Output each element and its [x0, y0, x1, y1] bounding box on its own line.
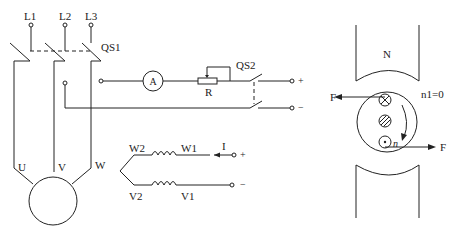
switch-qs2	[250, 74, 290, 108]
winding-plus: +	[240, 149, 246, 160]
label-qs1: QS1	[101, 41, 121, 53]
rotation-arrow	[402, 105, 407, 137]
shaft-icon	[379, 115, 391, 127]
rotor	[357, 92, 417, 152]
dc-minus: −	[298, 102, 304, 113]
label-l3: L3	[85, 10, 98, 22]
dc-plus: +	[298, 75, 304, 86]
dc-braking-diagram: L1 L2 L3 QS1 A R	[0, 0, 458, 234]
terminal-dc1	[63, 81, 67, 85]
terminal-plus	[290, 79, 294, 83]
terminal-minus	[290, 106, 294, 110]
terminal-v: V	[58, 161, 66, 173]
force-left-label: F	[330, 91, 336, 103]
south-pole	[356, 165, 419, 218]
resistor-label: R	[205, 86, 213, 98]
label-w1: W1	[181, 142, 197, 154]
ammeter-label: A	[149, 76, 157, 87]
force-right-label: F	[440, 141, 446, 153]
rotation-label: n	[393, 138, 398, 149]
motor	[29, 177, 77, 225]
label-v2: V2	[129, 190, 142, 202]
winding-terminal-plus	[232, 153, 236, 157]
label-l1: L1	[24, 10, 36, 22]
conductor-into-page-icon	[379, 94, 391, 106]
current-label: I	[222, 140, 226, 152]
terminal-w: W	[95, 159, 106, 171]
resistor	[198, 78, 217, 84]
terminal-u: U	[18, 161, 26, 173]
stator-winding	[120, 152, 232, 186]
label-l2: L2	[59, 10, 71, 22]
label-qs2: QS2	[236, 59, 256, 71]
speed-label: n1=0	[421, 88, 444, 100]
label-v1: V1	[181, 190, 194, 202]
label-w2: W2	[129, 142, 145, 154]
winding-terminal-minus	[230, 183, 234, 187]
winding-minus: −	[240, 179, 246, 190]
terminal-dc2	[99, 79, 103, 83]
conductor-out-of-page-icon	[379, 136, 391, 148]
supply-terminals	[29, 23, 93, 51]
pole-n-label: N	[383, 48, 391, 60]
